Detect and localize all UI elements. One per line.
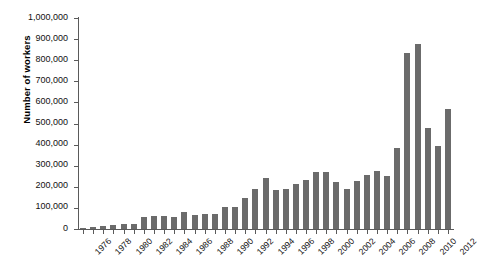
x-axis-tick-mark xyxy=(418,230,419,234)
y-axis-tick-label: 1,000,000 xyxy=(28,12,68,22)
bar xyxy=(131,224,137,229)
bar xyxy=(202,214,208,229)
x-axis-tick-mark xyxy=(255,230,256,234)
bar xyxy=(110,225,116,229)
x-axis-tick-mark xyxy=(276,230,277,234)
x-axis-tick-label: 2000 xyxy=(336,236,357,257)
y-axis-title: Number of workers xyxy=(21,10,32,150)
x-axis-tick-label: 2008 xyxy=(417,236,438,257)
bar xyxy=(263,178,269,229)
x-axis-tick-mark xyxy=(296,230,297,234)
x-axis-tick-mark xyxy=(397,230,398,234)
y-axis-tick-label: 400,000 xyxy=(35,138,68,148)
bar xyxy=(323,172,329,229)
bar xyxy=(212,214,218,229)
bar xyxy=(222,207,228,229)
x-axis-tick-mark xyxy=(93,230,94,234)
bar xyxy=(283,189,289,229)
y-axis-tick-mark xyxy=(74,229,78,230)
x-axis-tick-mark xyxy=(306,230,307,234)
x-axis-tick-mark xyxy=(245,230,246,234)
bar xyxy=(151,216,157,229)
x-axis-tick-label: 2006 xyxy=(397,236,418,257)
plot-area xyxy=(78,18,453,229)
bar xyxy=(293,184,299,229)
bar xyxy=(394,148,400,229)
x-axis-tick-label: 1976 xyxy=(93,236,114,257)
x-axis-tick-mark xyxy=(184,230,185,234)
y-axis-tick-label: 500,000 xyxy=(35,117,68,127)
bar xyxy=(100,226,106,229)
bar xyxy=(181,212,187,229)
y-axis-tick-label: 800,000 xyxy=(35,54,68,64)
bar xyxy=(141,217,147,229)
bar xyxy=(303,180,309,229)
bar xyxy=(121,224,127,229)
y-axis-tick-label: 600,000 xyxy=(35,96,68,106)
bar xyxy=(313,172,319,229)
bar xyxy=(425,128,431,229)
x-axis-tick-label: 1982 xyxy=(153,236,174,257)
y-axis-tick-label: 100,000 xyxy=(35,201,68,211)
bar xyxy=(242,198,248,229)
x-axis-tick-mark xyxy=(235,230,236,234)
x-axis-tick-label: 1996 xyxy=(295,236,316,257)
bar xyxy=(333,182,339,229)
bar xyxy=(384,176,390,229)
x-axis-tick-mark xyxy=(286,230,287,234)
x-axis-tick-mark xyxy=(195,230,196,234)
bar xyxy=(364,175,370,229)
x-axis-tick-mark xyxy=(316,230,317,234)
x-axis-tick-mark xyxy=(164,230,165,234)
bar xyxy=(252,189,258,229)
bar xyxy=(90,227,96,229)
x-axis-tick-mark xyxy=(225,230,226,234)
x-axis-tick-mark xyxy=(266,230,267,234)
x-axis-tick-mark xyxy=(357,230,358,234)
x-axis-tick-label: 1990 xyxy=(235,236,256,257)
x-axis-tick-mark xyxy=(448,230,449,234)
x-axis-tick-mark xyxy=(326,230,327,234)
y-axis-tick-label: 300,000 xyxy=(35,159,68,169)
bar xyxy=(171,217,177,229)
x-axis-tick-mark xyxy=(336,230,337,234)
x-axis-tick-mark xyxy=(103,230,104,234)
y-axis-tick-label: 200,000 xyxy=(35,180,68,190)
x-axis-tick-label: 1998 xyxy=(316,236,337,257)
bar xyxy=(445,109,451,229)
x-axis-tick-label: 2010 xyxy=(437,236,458,257)
bar xyxy=(161,216,167,229)
x-axis-tick-mark xyxy=(174,230,175,234)
x-axis-tick-label: 1978 xyxy=(113,236,134,257)
bar xyxy=(415,44,421,229)
bar xyxy=(273,190,279,229)
y-axis-tick-label: 700,000 xyxy=(35,75,68,85)
x-axis-tick-label: 2012 xyxy=(458,236,478,257)
x-axis-tick-mark xyxy=(83,230,84,234)
x-axis-tick-label: 2004 xyxy=(376,236,397,257)
x-axis-tick-mark xyxy=(113,230,114,234)
bar xyxy=(404,53,410,229)
x-axis-tick-label: 1986 xyxy=(194,236,215,257)
x-axis-tick-label: 2002 xyxy=(356,236,377,257)
x-axis-tick-label: 1988 xyxy=(214,236,235,257)
x-axis-tick-mark xyxy=(205,230,206,234)
x-axis-tick-mark xyxy=(428,230,429,234)
bar xyxy=(192,215,198,229)
x-axis-tick-mark xyxy=(124,230,125,234)
bar xyxy=(374,171,380,229)
x-axis-tick-mark xyxy=(377,230,378,234)
x-axis-tick-label: 1984 xyxy=(174,236,195,257)
bar xyxy=(80,228,86,229)
y-axis-tick-label: 900,000 xyxy=(35,33,68,43)
x-axis-tick-mark xyxy=(367,230,368,234)
bar xyxy=(354,181,360,229)
bar xyxy=(232,207,238,229)
x-axis-tick-mark xyxy=(215,230,216,234)
x-axis-tick-mark xyxy=(144,230,145,234)
x-axis-tick-mark xyxy=(438,230,439,234)
x-axis-tick-mark xyxy=(154,230,155,234)
bar xyxy=(344,189,350,229)
x-axis-tick-mark xyxy=(347,230,348,234)
